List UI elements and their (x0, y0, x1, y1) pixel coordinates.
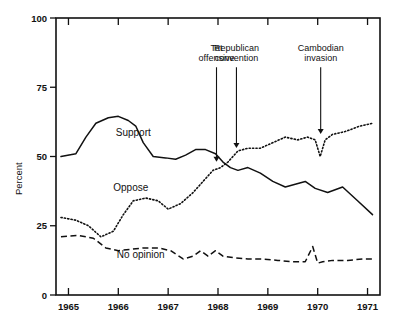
y-tick-label: 75 (36, 82, 47, 93)
x-tick-label: 1969 (257, 301, 278, 312)
series-label-support: Support (116, 127, 151, 138)
y-tick-label: 25 (36, 220, 47, 231)
x-tick-label: 1970 (307, 301, 328, 312)
annotation-arrowhead-tet-offensive (214, 157, 220, 162)
y-tick-label: 100 (31, 13, 47, 24)
series-label-oppose: Oppose (113, 182, 148, 193)
y-axis-title-text: Percent (13, 162, 24, 195)
annotation-arrowhead-republican-convention (233, 143, 239, 148)
annotation-label-cambodian-invasion: Cambodian (298, 43, 344, 53)
y-axis-title: Percent (13, 162, 24, 195)
series-inline-labels: SupportOpposeNo opinion (113, 127, 164, 260)
y-tick-label: 50 (36, 151, 47, 162)
annotation-label-republican-convention: convention (215, 53, 259, 63)
x-tick-label: 1967 (158, 301, 179, 312)
series-line-no-opinion (61, 235, 373, 263)
x-tick-label: 1966 (108, 301, 129, 312)
y-tick-label: 0 (42, 290, 47, 301)
annotation-arrowhead-cambodian-invasion (318, 129, 324, 134)
x-tick-label: 1971 (357, 301, 379, 312)
chart-annotations: TetoffensiveRepublicanconventionCambodia… (199, 43, 344, 162)
chart-container: 02550751001965196619671968196919701971 S… (0, 0, 395, 326)
series-label-no-opinion: No opinion (117, 249, 165, 260)
line-chart: 02550751001965196619671968196919701971 S… (0, 0, 395, 326)
annotation-label-republican-convention: Republican (214, 43, 259, 53)
x-tick-label: 1965 (58, 301, 80, 312)
annotation-label-cambodian-invasion: invasion (304, 53, 337, 63)
x-tick-label: 1968 (207, 301, 228, 312)
